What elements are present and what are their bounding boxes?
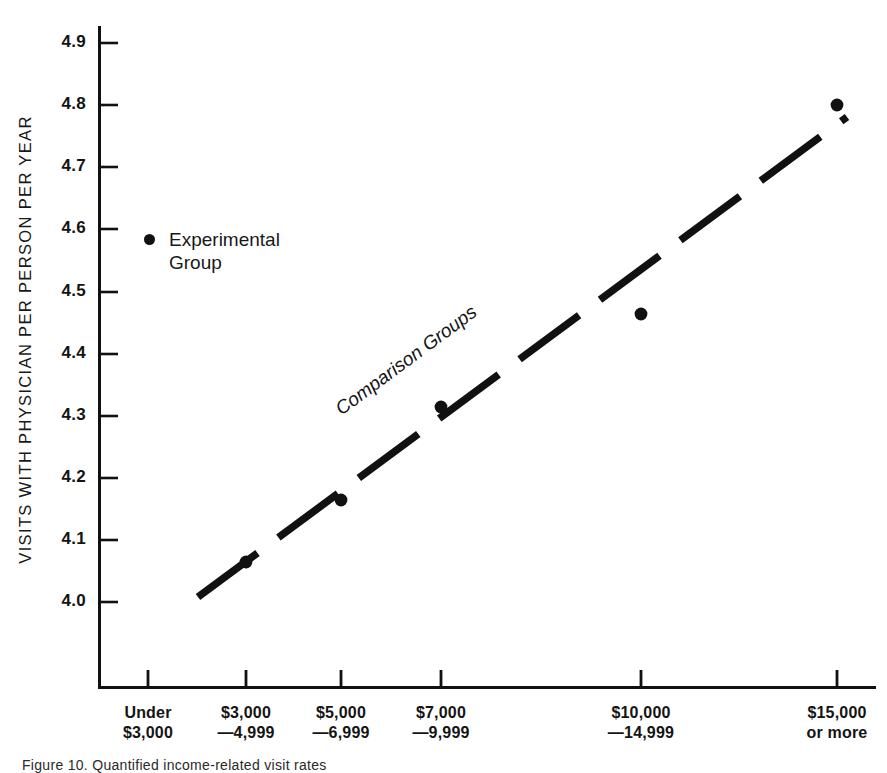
data-point xyxy=(335,494,348,507)
x-tick-label-line1: $7,000 xyxy=(416,704,466,721)
figure-caption: Figure 10. Quantified income-related vis… xyxy=(22,757,327,773)
data-point xyxy=(635,308,648,321)
y-tick-label: 4.7 xyxy=(38,156,86,176)
x-tick-label-line1: Under xyxy=(124,704,171,721)
x-tick-label-line2: or more xyxy=(777,723,887,743)
x-tick-label-line1: $3,000 xyxy=(221,704,271,721)
x-tick-label-7000-9999: $7,000 —9,999 xyxy=(381,703,501,744)
legend-label-experimental-group: Experimental Group xyxy=(169,228,280,274)
filled-circle-icon xyxy=(144,234,155,245)
x-tick-label-line1: $5,000 xyxy=(316,704,366,721)
x-tick-label-10000-14999: $10,000 —14,999 xyxy=(581,703,701,744)
x-tick-label-line2: —9,999 xyxy=(381,723,501,743)
x-tick-label-line1: $15,000 xyxy=(807,704,866,721)
data-point xyxy=(240,556,253,569)
x-tick-label-line2: —14,999 xyxy=(581,723,701,743)
y-tick-label: 4.1 xyxy=(38,529,86,549)
y-tick-label: 4.5 xyxy=(38,281,86,301)
y-axis-title: VISITS WITH PHYSICIAN PER PERSON PER YEA… xyxy=(16,30,35,650)
legend: Experimental Group xyxy=(144,228,280,274)
data-point xyxy=(831,99,844,112)
comparison-groups-trend-line xyxy=(198,117,847,597)
y-tick-label: 4.3 xyxy=(38,405,86,425)
y-tick-marks xyxy=(100,43,118,602)
x-tick-marks xyxy=(148,670,837,687)
y-tick-label: 4.9 xyxy=(38,32,86,52)
x-tick-label-15000-or-more: $15,000 or more xyxy=(777,703,887,744)
y-tick-label: 4.0 xyxy=(38,591,86,611)
y-tick-label: 4.2 xyxy=(38,467,86,487)
x-tick-label-line1: $10,000 xyxy=(611,704,670,721)
data-point xyxy=(435,401,448,414)
y-tick-label: 4.8 xyxy=(38,94,86,114)
y-tick-label: 4.6 xyxy=(38,218,86,238)
y-tick-label: 4.4 xyxy=(38,343,86,363)
